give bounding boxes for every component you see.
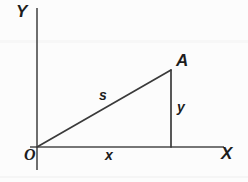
geometry-figure: Y X O A s x y xyxy=(0,0,248,182)
hypotenuse-label: s xyxy=(99,88,107,102)
y-axis-label: Y xyxy=(16,3,27,20)
x-axis-label: X xyxy=(221,145,232,162)
origin-label: O xyxy=(24,147,36,163)
vertical-leg-label: y xyxy=(177,100,185,114)
coordinate-diagram-canvas xyxy=(0,0,248,182)
horizontal-leg-label: x xyxy=(105,148,113,162)
hypotenuse-segment xyxy=(37,70,171,147)
vertex-a-label: A xyxy=(176,52,188,69)
